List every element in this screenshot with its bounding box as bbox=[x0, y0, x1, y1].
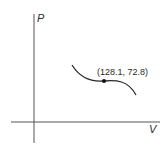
point-label: (128.1, 72.8) bbox=[97, 67, 148, 77]
pv-diagram: P V (128.1, 72.8) bbox=[0, 0, 165, 146]
x-axis-label: V bbox=[149, 123, 158, 135]
inflection-point bbox=[102, 79, 106, 83]
y-axis-label: P bbox=[37, 12, 45, 24]
